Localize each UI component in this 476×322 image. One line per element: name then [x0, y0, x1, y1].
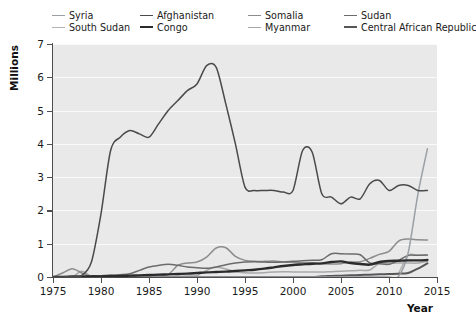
series-line-afghanistan: [53, 63, 427, 277]
